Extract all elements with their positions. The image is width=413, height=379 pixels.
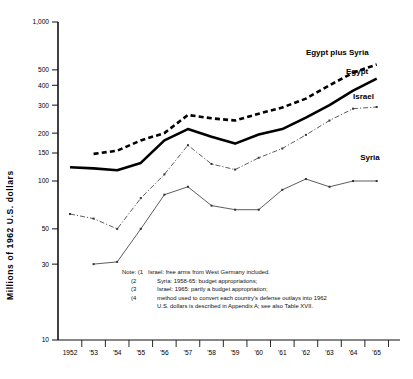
- x-axis-ticks: 1952'53'54'55'56'57'58'59'60'61'62'63'64…: [63, 340, 389, 356]
- note-line: (2Syria: 1958-65: budget appropriations;: [131, 277, 401, 286]
- series-label: Egypt: [346, 67, 369, 76]
- series-point: [116, 228, 118, 230]
- y-tick-label: 50: [42, 225, 50, 232]
- series-point: [163, 173, 165, 175]
- series-point: [211, 205, 213, 207]
- series-point: [305, 134, 307, 136]
- series-line: [70, 107, 377, 229]
- x-tick-label: '56: [160, 349, 169, 356]
- series-point: [281, 189, 283, 191]
- y-tick-label: 30: [42, 261, 50, 268]
- note-line: (3Israel: 1965: partly a budget appropri…: [131, 285, 401, 294]
- series-point: [116, 261, 118, 263]
- series-point: [328, 186, 330, 188]
- note-text: Israel: free arms from West Germany incl…: [148, 268, 270, 277]
- x-tick-label: '58: [207, 349, 216, 356]
- series-point: [93, 218, 95, 220]
- series-point: [187, 186, 189, 188]
- y-tick-label: 200: [38, 130, 49, 137]
- series-point: [328, 120, 330, 122]
- series-label: Israel: [353, 92, 374, 101]
- series-point: [211, 163, 213, 165]
- note-text: Syria: 1958-65: budget appropriations;: [157, 277, 257, 286]
- series-point: [234, 169, 236, 171]
- chart-note: Note: (1Israel: free arms from West Germ…: [131, 268, 401, 311]
- series-point: [376, 106, 378, 108]
- y-tick-label: 300: [38, 102, 49, 109]
- series-label: Syria: [360, 153, 380, 162]
- y-tick-label: 500: [38, 66, 49, 73]
- series-point: [352, 180, 354, 182]
- note-text: method used to convert each country's de…: [157, 294, 327, 303]
- data-series-layer: [69, 65, 378, 266]
- series-point: [281, 148, 283, 150]
- x-tick-label: '59: [231, 349, 240, 356]
- note-marker: (3: [131, 285, 157, 294]
- x-tick-label: '64: [349, 349, 358, 356]
- series-point: [234, 209, 236, 211]
- note-line: U.S. dollars is described in Appendix A;…: [131, 302, 401, 311]
- note-text: U.S. dollars is described in Appendix A;…: [157, 302, 313, 311]
- note-marker: [131, 302, 157, 311]
- y-tick-label: 100: [38, 177, 49, 184]
- x-tick-label: '57: [184, 349, 193, 356]
- series-point: [140, 228, 142, 230]
- x-tick-label: '62: [302, 349, 311, 356]
- y-tick-label: 10: [42, 336, 50, 343]
- series-point: [93, 263, 95, 265]
- series-point: [305, 178, 307, 180]
- x-tick-label: '54: [113, 349, 122, 356]
- y-tick-label: 1,000: [32, 18, 49, 25]
- x-tick-label: '53: [89, 349, 98, 356]
- note-line: Note: (1Israel: free arms from West Germ…: [131, 268, 401, 277]
- series-line: [94, 65, 377, 154]
- x-tick-label: 1952: [63, 349, 78, 356]
- series-line: [70, 79, 377, 171]
- y-axis-ticks: 1030501001502003004005001,000: [32, 18, 58, 343]
- series-point: [140, 197, 142, 199]
- y-axis-title: Millions of 1962 U.S. dollars: [5, 170, 15, 300]
- x-tick-label: '65: [372, 349, 381, 356]
- series-point: [258, 157, 260, 159]
- series-line: [94, 179, 377, 264]
- series-point: [352, 108, 354, 110]
- note-line: (4method used to convert each country's …: [131, 294, 401, 303]
- line-chart-canvas: Millions of 1962 U.S. dollars 1030501001…: [0, 0, 413, 379]
- series-labels-layer: Egypt plus SyriaEgyptIsraelSyria: [306, 48, 380, 162]
- y-tick-label: 150: [38, 149, 49, 156]
- series-point: [187, 144, 189, 146]
- chart-figure: Millions of 1962 U.S. dollars 1030501001…: [0, 0, 413, 379]
- note-marker: Note: (1: [122, 268, 148, 277]
- series-label: Egypt plus Syria: [306, 48, 369, 57]
- series-point: [258, 209, 260, 211]
- note-marker: (2: [131, 277, 157, 286]
- x-tick-label: '63: [325, 349, 334, 356]
- x-tick-label: '61: [278, 349, 287, 356]
- x-tick-label: '60: [254, 349, 263, 356]
- note-marker: (4: [131, 294, 157, 303]
- x-tick-label: '55: [136, 349, 145, 356]
- series-point: [69, 213, 71, 215]
- series-point: [163, 194, 165, 196]
- y-tick-label: 400: [38, 82, 49, 89]
- note-text: Israel: 1965: partly a budget appropriat…: [157, 285, 268, 294]
- series-point: [376, 180, 378, 182]
